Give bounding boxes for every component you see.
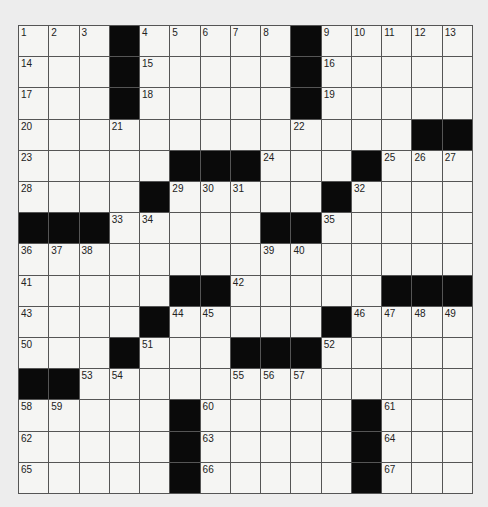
crossword-cell[interactable]: [49, 307, 78, 337]
crossword-cell[interactable]: [170, 120, 199, 150]
crossword-cell[interactable]: 6: [201, 26, 230, 56]
crossword-cell[interactable]: [322, 463, 351, 493]
crossword-cell[interactable]: [201, 57, 230, 87]
crossword-cell[interactable]: [140, 244, 169, 274]
crossword-cell[interactable]: 35: [322, 213, 351, 243]
crossword-cell[interactable]: [322, 120, 351, 150]
crossword-cell[interactable]: [140, 369, 169, 399]
crossword-cell[interactable]: 66: [201, 463, 230, 493]
crossword-cell[interactable]: [261, 57, 290, 87]
crossword-cell[interactable]: [231, 463, 260, 493]
crossword-cell[interactable]: 61: [382, 400, 411, 430]
crossword-cell[interactable]: [412, 182, 441, 212]
crossword-cell[interactable]: 28: [19, 182, 48, 212]
crossword-cell[interactable]: 47: [382, 307, 411, 337]
crossword-cell[interactable]: 43: [19, 307, 48, 337]
crossword-cell[interactable]: [443, 213, 472, 243]
crossword-cell[interactable]: [352, 88, 381, 118]
crossword-cell[interactable]: 67: [382, 463, 411, 493]
crossword-cell[interactable]: [140, 276, 169, 306]
crossword-cell[interactable]: 21: [110, 120, 139, 150]
crossword-cell[interactable]: [80, 307, 109, 337]
crossword-cell[interactable]: [170, 213, 199, 243]
crossword-cell[interactable]: [443, 244, 472, 274]
crossword-cell[interactable]: [261, 432, 290, 462]
crossword-cell[interactable]: [140, 432, 169, 462]
crossword-cell[interactable]: [231, 307, 260, 337]
crossword-cell[interactable]: [80, 88, 109, 118]
crossword-cell[interactable]: [443, 463, 472, 493]
crossword-cell[interactable]: [443, 88, 472, 118]
crossword-cell[interactable]: [140, 463, 169, 493]
crossword-cell[interactable]: 20: [19, 120, 48, 150]
crossword-cell[interactable]: [49, 276, 78, 306]
crossword-cell[interactable]: [291, 432, 320, 462]
crossword-cell[interactable]: [291, 307, 320, 337]
crossword-cell[interactable]: [412, 338, 441, 368]
crossword-cell[interactable]: [49, 151, 78, 181]
crossword-cell[interactable]: 63: [201, 432, 230, 462]
crossword-cell[interactable]: [170, 57, 199, 87]
crossword-cell[interactable]: 58: [19, 400, 48, 430]
crossword-cell[interactable]: 14: [19, 57, 48, 87]
crossword-cell[interactable]: [382, 244, 411, 274]
crossword-cell[interactable]: [322, 151, 351, 181]
crossword-cell[interactable]: [443, 400, 472, 430]
crossword-cell[interactable]: [49, 338, 78, 368]
crossword-cell[interactable]: [322, 244, 351, 274]
crossword-cell[interactable]: 19: [322, 88, 351, 118]
crossword-cell[interactable]: [291, 182, 320, 212]
crossword-cell[interactable]: [382, 338, 411, 368]
crossword-cell[interactable]: [201, 244, 230, 274]
crossword-cell[interactable]: [80, 182, 109, 212]
crossword-cell[interactable]: [352, 276, 381, 306]
crossword-cell[interactable]: 54: [110, 369, 139, 399]
crossword-cell[interactable]: 65: [19, 463, 48, 493]
crossword-cell[interactable]: [412, 57, 441, 87]
crossword-cell[interactable]: 25: [382, 151, 411, 181]
crossword-cell[interactable]: [80, 432, 109, 462]
crossword-cell[interactable]: [49, 463, 78, 493]
crossword-cell[interactable]: 12: [412, 26, 441, 56]
crossword-cell[interactable]: [412, 463, 441, 493]
crossword-cell[interactable]: [231, 432, 260, 462]
crossword-cell[interactable]: [412, 400, 441, 430]
crossword-cell[interactable]: 31: [231, 182, 260, 212]
crossword-cell[interactable]: 57: [291, 369, 320, 399]
crossword-cell[interactable]: 10: [352, 26, 381, 56]
crossword-cell[interactable]: [110, 400, 139, 430]
crossword-cell[interactable]: [352, 120, 381, 150]
crossword-cell[interactable]: 29: [170, 182, 199, 212]
crossword-cell[interactable]: [80, 463, 109, 493]
crossword-cell[interactable]: [352, 369, 381, 399]
crossword-cell[interactable]: 24: [261, 151, 290, 181]
crossword-cell[interactable]: [291, 151, 320, 181]
crossword-cell[interactable]: 42: [231, 276, 260, 306]
crossword-cell[interactable]: 44: [170, 307, 199, 337]
crossword-cell[interactable]: [110, 244, 139, 274]
crossword-cell[interactable]: 34: [140, 213, 169, 243]
crossword-cell[interactable]: 53: [80, 369, 109, 399]
crossword-cell[interactable]: [49, 57, 78, 87]
crossword-cell[interactable]: [382, 369, 411, 399]
crossword-cell[interactable]: 48: [412, 307, 441, 337]
crossword-cell[interactable]: [291, 463, 320, 493]
crossword-cell[interactable]: 41: [19, 276, 48, 306]
crossword-cell[interactable]: [80, 400, 109, 430]
crossword-cell[interactable]: [49, 120, 78, 150]
crossword-cell[interactable]: [110, 432, 139, 462]
crossword-cell[interactable]: 22: [291, 120, 320, 150]
crossword-cell[interactable]: 40: [291, 244, 320, 274]
crossword-cell[interactable]: [322, 432, 351, 462]
crossword-cell[interactable]: [110, 276, 139, 306]
crossword-cell[interactable]: [443, 182, 472, 212]
crossword-cell[interactable]: 3: [80, 26, 109, 56]
crossword-cell[interactable]: [443, 369, 472, 399]
crossword-cell[interactable]: [261, 88, 290, 118]
crossword-cell[interactable]: [80, 338, 109, 368]
crossword-cell[interactable]: [140, 120, 169, 150]
crossword-cell[interactable]: 64: [382, 432, 411, 462]
crossword-cell[interactable]: [352, 213, 381, 243]
crossword-cell[interactable]: 17: [19, 88, 48, 118]
crossword-cell[interactable]: 60: [201, 400, 230, 430]
